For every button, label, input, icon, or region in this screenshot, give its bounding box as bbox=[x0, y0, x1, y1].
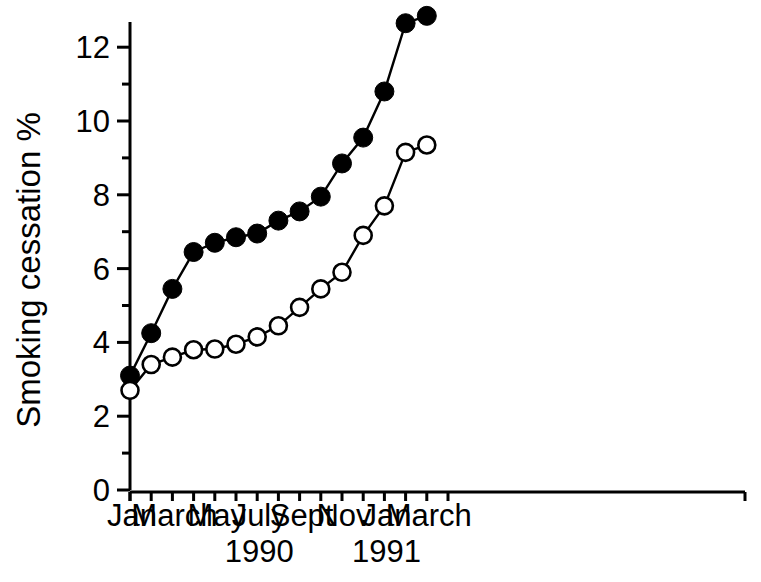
data-point-filled bbox=[311, 187, 330, 206]
data-point-open bbox=[270, 317, 287, 334]
x-axis-year-label: 1990 bbox=[225, 534, 294, 569]
data-point-filled bbox=[142, 324, 161, 343]
y-axis-tick-labels: 024681012 bbox=[76, 30, 110, 508]
data-point-filled bbox=[375, 82, 394, 101]
data-point-filled bbox=[269, 211, 288, 230]
x-axis-year-labels: 19901991 bbox=[225, 534, 421, 569]
y-axis-tick-label: 2 bbox=[93, 399, 110, 434]
data-point-open bbox=[122, 382, 139, 399]
data-point-open bbox=[228, 336, 245, 353]
data-point-open bbox=[376, 197, 393, 214]
data-point-filled bbox=[290, 202, 309, 221]
line-chart: Smoking cessation % 024681012 JanMarchMa… bbox=[0, 0, 761, 582]
axes bbox=[117, 22, 745, 501]
data-point-open bbox=[185, 341, 202, 358]
data-point-open bbox=[143, 356, 160, 373]
data-series bbox=[121, 6, 437, 399]
data-point-filled bbox=[333, 154, 352, 173]
data-point-open bbox=[206, 341, 223, 358]
y-axis-tick-label: 4 bbox=[93, 325, 110, 360]
data-point-filled bbox=[354, 128, 373, 147]
data-point-filled bbox=[396, 14, 415, 33]
data-point-open bbox=[355, 227, 372, 244]
y-axis-label: Smoking cessation % bbox=[10, 112, 47, 427]
data-point-filled bbox=[248, 224, 267, 243]
x-axis-tick-labels: JanMarchMayJulySeptNovJanMarch bbox=[107, 498, 472, 533]
data-point-open bbox=[418, 136, 435, 153]
y-axis-tick-label: 12 bbox=[76, 30, 110, 65]
y-axis-tick-label: 6 bbox=[93, 252, 110, 287]
chart-figure: Smoking cessation % 024681012 JanMarchMa… bbox=[0, 0, 761, 582]
data-point-filled bbox=[205, 233, 224, 252]
x-axis-year-label: 1991 bbox=[352, 534, 421, 569]
data-point-open bbox=[249, 328, 266, 345]
data-point-open bbox=[291, 299, 308, 316]
data-point-open bbox=[397, 144, 414, 161]
y-axis-tick-label: 10 bbox=[76, 104, 110, 139]
data-point-filled bbox=[227, 228, 246, 247]
y-axis-tick-label: 8 bbox=[93, 178, 110, 213]
data-point-open bbox=[164, 349, 181, 366]
series-open-circles bbox=[122, 136, 436, 398]
data-point-filled bbox=[417, 6, 436, 25]
data-point-filled bbox=[163, 279, 182, 298]
data-point-open bbox=[312, 280, 329, 297]
x-axis-tick-label: March bbox=[386, 498, 472, 533]
data-point-filled bbox=[184, 243, 203, 262]
data-point-open bbox=[334, 264, 351, 281]
